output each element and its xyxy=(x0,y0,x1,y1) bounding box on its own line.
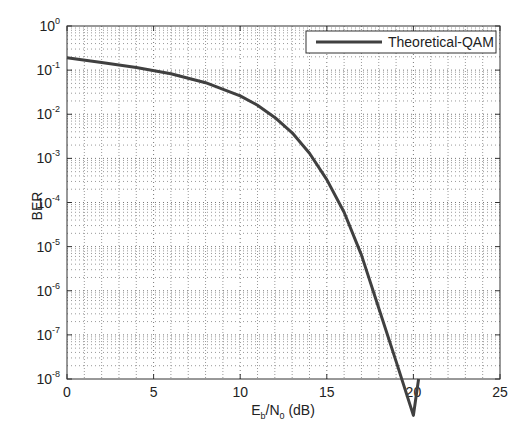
x-tick-label: 0 xyxy=(63,384,71,400)
legend: Theoretical-QAM xyxy=(306,31,496,53)
x-tick-labels: 0510152025 xyxy=(63,384,508,400)
y-tick-label: 100 xyxy=(39,16,60,34)
y-tick-label: 10-3 xyxy=(36,148,60,166)
x-tick-label: 25 xyxy=(492,384,508,400)
x-tick-label: 10 xyxy=(232,384,248,400)
y-tick-label: 10-7 xyxy=(36,325,60,343)
legend-label: Theoretical-QAM xyxy=(388,34,494,50)
x-axis-label: Eb/N0 (dB) xyxy=(251,402,315,421)
series-theoretical-qam-line xyxy=(67,58,419,416)
y-axis-label: BER xyxy=(29,192,45,221)
y-tick-label: 10-2 xyxy=(36,104,60,122)
y-tick-label: 10-5 xyxy=(36,237,60,255)
ber-chart: 0510152025 10010-110-210-310-410-510-610… xyxy=(0,0,525,431)
y-tick-label: 10-1 xyxy=(36,60,60,78)
grid-lines xyxy=(67,26,500,379)
x-tick-label: 15 xyxy=(319,384,335,400)
y-tick-label: 10-8 xyxy=(36,369,60,387)
y-tick-label: 10-6 xyxy=(36,281,60,299)
x-tick-label: 5 xyxy=(150,384,158,400)
